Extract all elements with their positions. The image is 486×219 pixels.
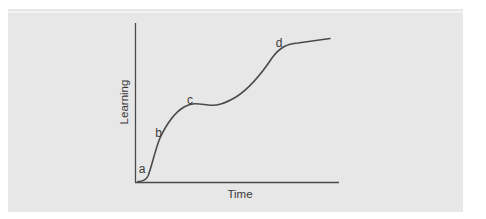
point-label-b: b: [155, 126, 162, 140]
x-axis-label: Time: [227, 188, 252, 200]
point-label-a: a: [139, 162, 146, 176]
learning-curve-diagram: a b c d Time Learning: [0, 0, 486, 219]
point-label-d: d: [276, 36, 283, 50]
learning-curve-line: [138, 39, 330, 182]
point-label-c: c: [187, 93, 193, 107]
y-axis-label: Learning: [118, 80, 130, 125]
